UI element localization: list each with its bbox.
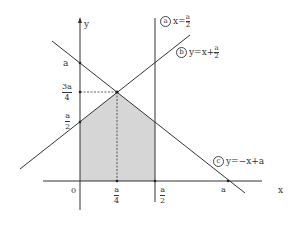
circled-b-icon: b (176, 47, 187, 58)
frac-num: a (114, 186, 119, 194)
x-axis-label: x (278, 186, 283, 195)
x-tick-a: a (221, 186, 226, 194)
frac-den: 4 (114, 197, 119, 205)
intersection-point (115, 90, 118, 93)
frac-den: 2 (160, 197, 165, 205)
y-tick-a2: a2 (65, 112, 70, 131)
y-tick-3a4: 3a4 (62, 83, 72, 102)
point-x-a2 (154, 180, 157, 183)
point-y-3a4 (79, 91, 82, 94)
point-x-a4 (116, 180, 119, 183)
y-tick-a: a (63, 59, 68, 68)
line-a-label: ax=a2 (160, 14, 190, 29)
frac-den: 2 (214, 53, 218, 60)
y-axis-label: y (84, 20, 89, 29)
frac-den: 2 (186, 22, 190, 29)
point-y-a2 (79, 121, 82, 124)
eq-text: y=x+ (189, 47, 214, 57)
frac-den: 4 (64, 94, 69, 102)
x-tick-a4: a4 (114, 186, 119, 205)
circled-a-icon: a (160, 16, 171, 27)
x-tick-a2: a2 (160, 186, 165, 205)
shaded-region (80, 92, 155, 181)
frac-num: 3a (62, 83, 72, 91)
frac-num: a (214, 45, 218, 52)
eq-frac: a2 (214, 45, 218, 60)
circled-c-icon: c (213, 156, 224, 167)
eq-frac: a2 (186, 14, 190, 29)
origin-label: 0 (71, 187, 76, 195)
line-c-label: cy=−x+a (213, 156, 264, 167)
point-y-a (79, 62, 82, 65)
graph-canvas (0, 0, 295, 227)
eq-text: x= (173, 16, 186, 26)
point-x-a (227, 180, 230, 183)
line-b-label: by=x+a2 (176, 45, 219, 60)
frac-num: a (65, 112, 70, 120)
frac-num: a (186, 14, 190, 21)
diagram: y x 0 a 3a4 a2 a4 a2 a ax=a2 by=x+a2 cy=… (0, 0, 295, 227)
eq-text: y=−x+a (226, 156, 264, 166)
y-axis-arrow-icon (78, 17, 82, 23)
frac-num: a (160, 186, 165, 194)
frac-den: 2 (65, 123, 70, 131)
